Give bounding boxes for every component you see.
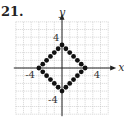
- data-point: [75, 73, 80, 78]
- data-point: [60, 89, 65, 94]
- x-tick-label: 4: [94, 69, 100, 80]
- data-point: [56, 46, 61, 51]
- data-point: [37, 66, 42, 71]
- data-point: [67, 50, 72, 55]
- data-point: [63, 85, 68, 90]
- x-tick-label: -4: [25, 69, 35, 80]
- data-point: [52, 81, 57, 86]
- data-point: [60, 43, 65, 48]
- data-point: [83, 66, 88, 71]
- data-point: [52, 50, 57, 55]
- data-point: [56, 85, 61, 90]
- data-point: [79, 69, 84, 74]
- data-point: [40, 62, 45, 67]
- data-point: [48, 54, 53, 59]
- data-point: [48, 77, 53, 82]
- data-point: [40, 69, 45, 74]
- data-point: [44, 58, 49, 63]
- data-point: [79, 62, 84, 67]
- data-point: [75, 58, 80, 63]
- x-axis-label: x: [118, 61, 124, 74]
- scatter-plot: xy -444-4: [0, 0, 124, 124]
- data-point: [63, 46, 68, 51]
- y-axis-label: y: [58, 6, 66, 19]
- axes: xy: [14, 6, 124, 116]
- data-point: [44, 73, 49, 78]
- data-point: [71, 77, 76, 82]
- x-axis-arrow-icon: [110, 66, 116, 71]
- y-tick-label: 4: [53, 32, 59, 43]
- data-point: [71, 54, 76, 59]
- y-tick-label: -4: [48, 94, 58, 105]
- data-point: [67, 81, 72, 86]
